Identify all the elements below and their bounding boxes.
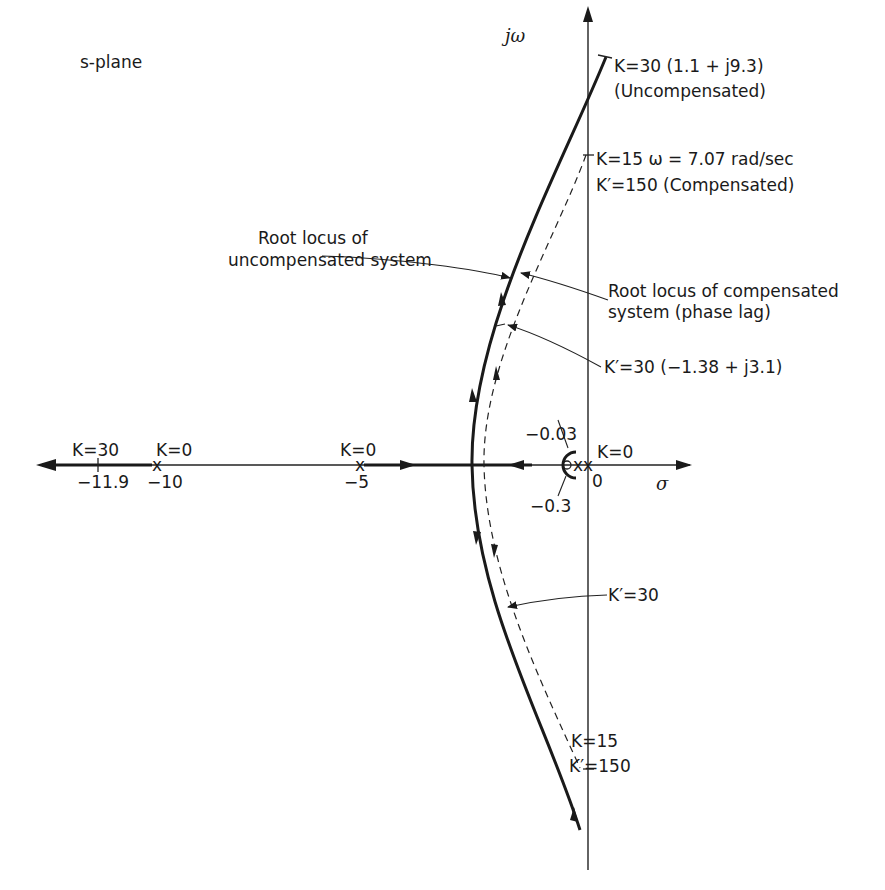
sigma-axis-label: σ [656,473,669,494]
label-crossing-bottom-1: K=15 [571,731,618,751]
label-k0-minus10: K=0 [156,440,192,460]
real-axis-arrow-icon [676,460,692,470]
label-zero: −0.03 [525,424,577,444]
label-uncomp-top: K=30 (1.1 + j9.3) [614,56,764,76]
label-origin: 0 [592,471,603,491]
pole-origin-pair: xx [573,455,593,475]
compensated-locus [484,155,586,768]
label-root-locus-uncomp-2: uncompensated system [228,250,432,270]
label-k0-minus5: K=0 [340,440,376,460]
label-pole-minus-0-3: −0.3 [530,496,571,516]
label-crossing-top-1: K=15 ω = 7.07 rad/sec [596,149,794,169]
left-arrow-icon [36,459,56,471]
label-minus5: −5 [344,472,369,492]
arrow-left-icon [508,460,524,470]
s-plane-title: s-plane [80,52,142,72]
imaginary-axis-arrow-icon [583,6,593,22]
label-root-locus-comp-1: Root locus of compensated [608,281,839,301]
label-uncomp-note: (Uncompensated) [614,81,766,101]
label-minus-11-9: −11.9 [77,472,129,492]
label-root-locus-comp-2: system (phase lag) [608,302,771,322]
label-kprime30-top: K′=30 (−1.38 + j3.1) [604,357,782,377]
label-crossing-top-2: K′=150 (Compensated) [596,175,794,195]
root-locus-diagram: x x xx jω σ s-plane K=30 (1.1 + j9.3) (U… [0,0,885,890]
label-origin-k0: K=0 [597,442,633,462]
label-root-locus-uncomp-1: Root locus of [258,228,369,248]
arrow-right-icon [400,460,416,470]
label-kprime30-bottom: K′=30 [608,585,659,605]
jw-axis-label: jω [501,25,526,46]
label-crossing-bottom-2: K′=150 [569,756,631,776]
label-k30-axis: K=30 [72,440,119,460]
label-minus10: −10 [147,472,183,492]
